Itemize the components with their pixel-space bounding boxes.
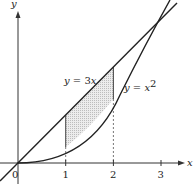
x-tick-label-3: 3 [158, 169, 164, 180]
y-axis-label: y [10, 0, 17, 9]
y-axis-arrow-icon [16, 11, 21, 18]
x-axis-arrow-icon [178, 161, 185, 166]
line-equation-label: y = 3x [63, 75, 97, 86]
x-tick-label-2: 2 [110, 169, 116, 180]
x-tick-label-1: 1 [63, 169, 69, 180]
x-axis-label: x [187, 157, 193, 168]
origin-label: 0 [12, 169, 18, 180]
area-between-curves-diagram: y x 0 1 2 3 y = 3x y = x2 [0, 0, 193, 187]
line-y-3x [0, 3, 177, 181]
